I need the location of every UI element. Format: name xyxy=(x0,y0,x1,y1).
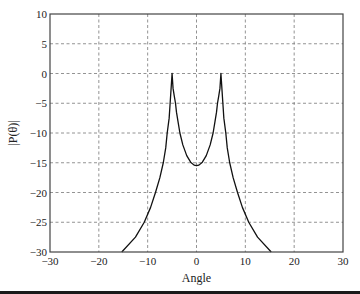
x-tick-label: −10 xyxy=(139,255,157,267)
y-tick-label: −15 xyxy=(30,157,48,169)
chart: −30−20−100102030 1050−5−10−15−20−25−30 A… xyxy=(0,0,360,294)
y-axis-label: |P(θ)| xyxy=(6,120,20,145)
y-tick-label: −5 xyxy=(35,97,47,109)
y-tick-label: −10 xyxy=(30,127,48,139)
y-tick-label: 0 xyxy=(42,68,48,80)
x-tick-label: 20 xyxy=(289,255,301,267)
y-tick-label: 5 xyxy=(42,38,48,50)
grid-lines xyxy=(50,14,343,252)
y-tick-label: −20 xyxy=(30,187,48,199)
x-axis-label: Angle xyxy=(182,271,211,285)
y-tick-label: −25 xyxy=(30,216,48,228)
y-tick-label: 10 xyxy=(36,8,48,20)
x-tick-label: 0 xyxy=(194,255,200,267)
x-tick-label: −20 xyxy=(90,255,108,267)
x-axis-ticks: −30−20−100102030 xyxy=(41,255,349,267)
y-tick-label: −30 xyxy=(30,246,48,258)
x-tick-label: 10 xyxy=(240,255,252,267)
y-axis-ticks: 1050−5−10−15−20−25−30 xyxy=(30,8,48,258)
x-tick-label: 30 xyxy=(338,255,350,267)
